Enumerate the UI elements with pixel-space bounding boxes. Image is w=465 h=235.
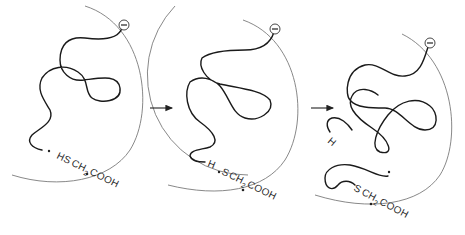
panel-2: H SCH2COOH <box>168 20 298 204</box>
label-2: SCH2COOH <box>219 166 278 204</box>
surface-arc-2 <box>168 20 298 191</box>
svg-text:SCH2COOH: SCH2COOH <box>219 166 278 204</box>
diagram-figure: HSCH2COOH H SCH2COOH H SCH2COOH <box>0 0 465 235</box>
protein-chain-3a <box>347 47 436 153</box>
panel-3: H SCH2COOH <box>315 34 452 222</box>
svg-text:HSCH2COOH: HSCH2COOH <box>54 150 121 191</box>
surface-arc-3 <box>315 34 452 204</box>
label-cooh: COOH <box>88 166 121 190</box>
svg-text:SCH2COOH: SCH2COOH <box>351 182 410 222</box>
label-3: SCH2COOH <box>351 182 410 222</box>
label-hs: HS <box>55 150 73 166</box>
h-label-3: H <box>326 135 339 148</box>
h-label-2: H <box>206 158 217 171</box>
protein-chain-2 <box>187 32 274 162</box>
diagram-canvas: HSCH2COOH H SCH2COOH H SCH2COOH <box>0 0 465 235</box>
protein-chain-3b <box>327 118 352 132</box>
label-cooh: COOH <box>246 178 279 202</box>
protein-chain-1 <box>30 28 122 150</box>
label-1: HSCH2COOH <box>54 150 121 191</box>
